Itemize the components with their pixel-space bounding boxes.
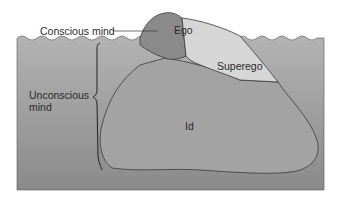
- unconscious-mind-label-line2: mind: [29, 101, 52, 113]
- conscious-mind-label: Conscious mind: [40, 25, 115, 37]
- unconscious-mind-label-line1: Unconscious: [29, 89, 89, 101]
- id-label: Id: [185, 120, 194, 132]
- iceberg-diagram: Conscious mind Unconscious mind Ego Supe…: [0, 0, 340, 204]
- superego-label: Superego: [217, 60, 263, 72]
- ego-label: Ego: [174, 24, 193, 36]
